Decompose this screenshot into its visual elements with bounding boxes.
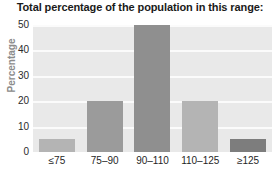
bars-layer [33,25,272,152]
y-tick-20: 20 [0,96,29,106]
y-tick-0: 0 [0,147,29,157]
bar-2[interactable] [134,25,170,152]
x-tick-1: 75–90 [82,155,128,166]
bar-3[interactable] [182,101,218,152]
x-tick-0: ≤75 [34,155,80,166]
bar-1[interactable] [87,101,123,152]
x-tick-3: 110–125 [177,155,223,166]
bar-chart: Total percentage of the population in th… [0,0,280,174]
y-tick-30: 30 [0,71,29,81]
plot-area [33,25,272,152]
bar-4[interactable] [230,139,266,152]
y-axis-tick-labels: 0 10 20 30 40 50 [0,25,29,152]
x-axis-tick-labels: ≤75 75–90 90–110 110–125 ≥125 [33,155,272,171]
bar-0[interactable] [39,139,75,152]
y-tick-40: 40 [0,45,29,55]
chart-title: Total percentage of the population in th… [0,1,280,13]
x-tick-2: 90–110 [129,155,175,166]
x-tick-4: ≥125 [225,155,271,166]
y-tick-50: 50 [0,20,29,30]
y-tick-10: 10 [0,122,29,132]
